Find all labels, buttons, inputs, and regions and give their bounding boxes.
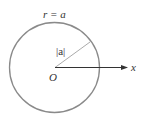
origin-label: O: [49, 72, 57, 83]
curve-label: r = a: [43, 9, 66, 20]
polar-circle-diagram: [0, 0, 146, 120]
radius-label: |a|: [56, 46, 65, 57]
arrowhead-icon: [121, 65, 128, 70]
axis-label: x: [131, 62, 136, 73]
